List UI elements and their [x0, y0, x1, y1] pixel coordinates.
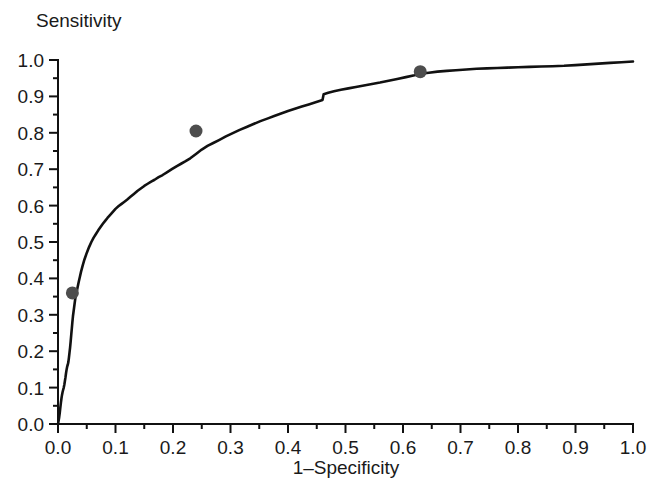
y-tick-label: 0.0	[18, 414, 44, 435]
y-axis-title: Sensitivity	[36, 10, 122, 31]
x-tick-label: 0.0	[45, 437, 71, 458]
y-tick-label: 0.1	[18, 378, 44, 399]
y-tick-label: 0.4	[18, 268, 45, 289]
cutpoint-high-marker	[414, 65, 427, 78]
x-tick-label: 0.8	[505, 437, 531, 458]
figure-background	[0, 0, 663, 497]
cutpoint-mid-marker	[190, 124, 203, 137]
y-tick-label: 1.0	[18, 50, 44, 71]
roc-curve-figure: Sensitivity 0.00.10.20.30.40.50.60.70.80…	[0, 0, 663, 497]
x-tick-label: 0.9	[562, 437, 588, 458]
y-tick-label: 0.9	[18, 86, 44, 107]
y-tick-label: 0.6	[18, 196, 44, 217]
y-tick-label: 0.8	[18, 123, 44, 144]
y-tick-label: 0.3	[18, 305, 44, 326]
x-tick-label: 0.3	[217, 437, 243, 458]
x-tick-label: 0.2	[160, 437, 186, 458]
x-tick-label: 0.4	[275, 437, 302, 458]
cutpoint-low-marker	[66, 286, 79, 299]
y-tick-label: 0.7	[18, 159, 44, 180]
x-tick-label: 0.6	[390, 437, 416, 458]
x-tick-label: 0.1	[102, 437, 128, 458]
x-tick-label: 1.0	[620, 437, 646, 458]
y-tick-label: 0.5	[18, 232, 44, 253]
x-tick-label: 0.7	[447, 437, 473, 458]
x-axis-title: 1–Specificity	[293, 457, 400, 478]
x-tick-label: 0.5	[332, 437, 358, 458]
y-tick-label: 0.2	[18, 341, 44, 362]
